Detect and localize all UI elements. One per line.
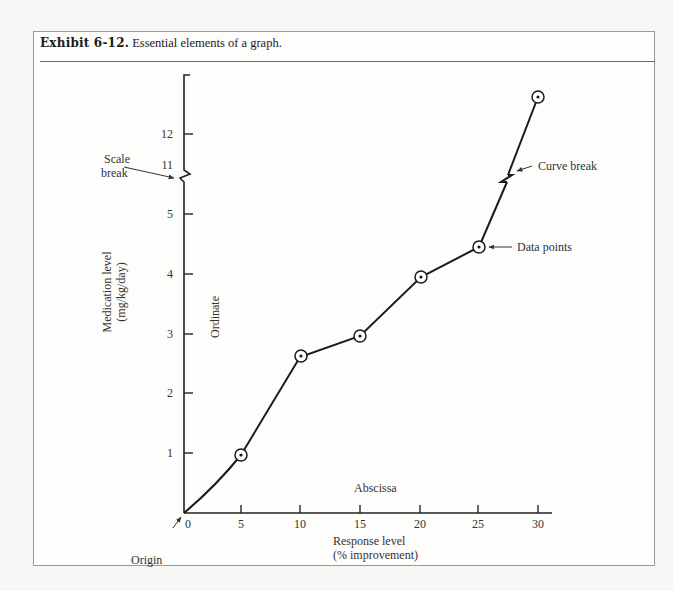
scale-break-label-1: Scale: [104, 152, 130, 166]
data-point: [532, 91, 544, 103]
data-point: [235, 449, 247, 461]
y-axis: [180, 75, 190, 513]
data-point: [295, 350, 307, 362]
data-point: [415, 271, 427, 283]
ordinate-label: Ordinate: [208, 296, 222, 338]
x-axis-title-2: (% improvement): [333, 548, 418, 562]
y-ticks: [184, 134, 193, 453]
y-tick-12: 12: [161, 127, 173, 141]
x-axis-title-1: Response level: [333, 534, 406, 548]
data-points: [235, 91, 544, 461]
x-tick-0: 0: [185, 517, 191, 531]
y-tick-2: 2: [167, 386, 173, 400]
x-ticks: [241, 505, 538, 513]
x-tick-25: 25: [472, 517, 484, 531]
abscissa-label: Abscissa: [354, 481, 397, 495]
y-tick-3: 3: [167, 327, 173, 341]
y-axis-title-2: (mg/kg/day): [114, 262, 128, 321]
scale-break-label-2: break: [101, 166, 128, 180]
data-points-label: Data points: [517, 240, 572, 254]
y-tick-5: 5: [167, 207, 173, 221]
x-tick-15: 15: [354, 517, 366, 531]
y-tick-4: 4: [167, 267, 173, 281]
data-point: [473, 241, 485, 253]
data-point: [354, 330, 366, 342]
x-tick-labels: 0 5 10 15 20 25 30: [185, 517, 544, 531]
origin-label: Origin: [131, 553, 162, 567]
x-tick-20: 20: [414, 517, 426, 531]
curve-break-arrow: [517, 166, 532, 171]
y-tick-1: 1: [167, 446, 173, 460]
x-tick-5: 5: [238, 517, 244, 531]
curve-break-label: Curve break: [538, 159, 597, 173]
y-axis-title-1: Medication level: [100, 251, 114, 333]
y-tick-11: 11: [161, 158, 173, 172]
x-tick-30: 30: [532, 517, 544, 531]
x-tick-10: 10: [294, 517, 306, 531]
graph: 12 11 5 4 3 2 1 0 5 10 15 20 25 30: [0, 0, 673, 591]
origin-arrow: [173, 517, 181, 528]
